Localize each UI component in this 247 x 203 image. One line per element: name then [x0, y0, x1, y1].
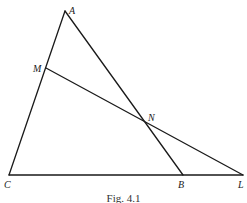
- label-C: C: [4, 179, 11, 190]
- label-B: B: [178, 179, 184, 190]
- figure-caption: Fig. 4.1: [0, 193, 247, 203]
- geometry-diagram: A M N C B L: [0, 0, 247, 203]
- segment-AB: [65, 11, 183, 175]
- segment-ML: [46, 68, 243, 175]
- segment-AC: [9, 11, 65, 175]
- label-M: M: [32, 63, 42, 74]
- label-N: N: [147, 112, 156, 123]
- label-A: A: [68, 5, 76, 16]
- label-L: L: [237, 179, 244, 190]
